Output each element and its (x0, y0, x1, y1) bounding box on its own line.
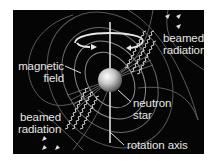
beamed-radiation-bottom-label: beamed radiation (18, 111, 61, 135)
pulsar-diagram: beamed radiation magnetic field neutron … (13, 10, 204, 154)
label-line: magnetic (15, 60, 64, 72)
label-line: beamed (18, 111, 61, 123)
wavy-arrow-icon (42, 136, 60, 150)
label-line: field (15, 72, 64, 84)
rotation-axis-label: rotation axis (127, 139, 188, 151)
label-line: rotation axis (127, 139, 188, 151)
label-line: beamed (163, 32, 204, 44)
label-line: neutron (133, 97, 171, 109)
neutron-star-sphere (98, 68, 122, 92)
neutron-star-label: neutron star (133, 97, 171, 121)
magnetic-field-label: magnetic field (15, 60, 64, 84)
beamed-radiation-top-label: beamed radiation (163, 32, 204, 56)
label-line: radiation (18, 123, 61, 135)
label-line: star (133, 109, 171, 121)
label-line: radiation (163, 44, 204, 56)
